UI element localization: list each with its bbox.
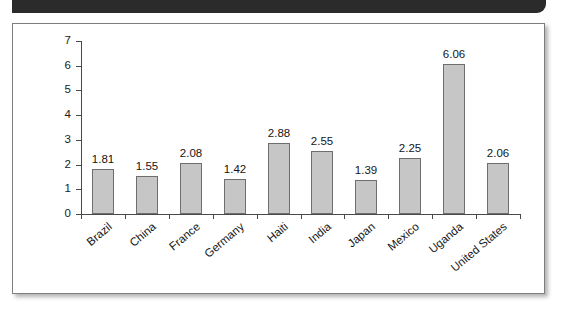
bar-value-label-china: 1.55 xyxy=(123,161,171,173)
x-axis-label-china: China xyxy=(128,221,158,249)
x-axis-tick-mark xyxy=(432,214,433,219)
x-axis-tick-mark xyxy=(257,214,258,219)
y-axis-tick-mark xyxy=(76,66,81,67)
x-axis-label-india: India xyxy=(307,221,333,246)
bar-chart-plot-area: 76543210 1.811.552.081.422.882.551.392.2… xyxy=(13,24,546,295)
bar-value-label-japan: 1.39 xyxy=(342,165,390,177)
y-axis-tick-mark xyxy=(76,189,81,190)
x-axis-tick-mark xyxy=(213,214,214,219)
x-axis-tick-mark xyxy=(520,214,521,219)
bar-united-states[interactable] xyxy=(487,163,509,214)
x-axis-tick-mark xyxy=(388,214,389,219)
y-axis-tick-mark xyxy=(76,140,81,141)
y-axis-tick-mark xyxy=(76,115,81,116)
x-axis-tick-mark xyxy=(81,214,82,219)
y-axis-tick-mark xyxy=(76,41,81,42)
bar-value-label-brazil: 1.81 xyxy=(79,154,127,166)
bar-india[interactable] xyxy=(311,151,333,214)
x-axis-tick-mark xyxy=(169,214,170,219)
y-axis-tick-label-text: 5 xyxy=(65,84,71,96)
bar-value-label-mexico: 2.25 xyxy=(386,143,434,155)
bar-china[interactable] xyxy=(136,176,158,214)
bar-value-label-india: 2.55 xyxy=(298,136,346,148)
chart-figure-frame: 76543210 1.811.552.081.422.882.551.392.2… xyxy=(12,23,545,294)
x-axis-label-france: France xyxy=(168,221,203,253)
x-axis-label-mexico: Mexico xyxy=(386,221,421,253)
x-axis-tick-mark xyxy=(301,214,302,219)
y-axis-tick-label-text: 1 xyxy=(65,183,71,195)
bar-haiti[interactable] xyxy=(268,143,290,214)
bar-france[interactable] xyxy=(180,163,202,214)
bar-value-label-germany: 1.42 xyxy=(211,164,259,176)
bar-uganda[interactable] xyxy=(443,64,465,214)
y-axis-tick-label-text: 3 xyxy=(65,134,71,146)
x-axis-label-uganda: Uganda xyxy=(427,221,465,256)
x-axis-tick-mark xyxy=(125,214,126,219)
bar-brazil[interactable] xyxy=(92,169,114,214)
y-axis-tick-label-text: 6 xyxy=(65,60,71,72)
bar-value-label-france: 2.08 xyxy=(167,148,215,160)
y-axis-tick-label-text: 4 xyxy=(65,109,71,121)
y-axis-tick-label-text: 7 xyxy=(65,35,71,47)
x-axis-label-japan: Japan xyxy=(346,221,377,250)
bar-germany[interactable] xyxy=(224,179,246,214)
y-axis-tick-mark xyxy=(76,90,81,91)
y-axis-tick-label-text: 2 xyxy=(65,159,71,171)
bar-value-label-haiti: 2.88 xyxy=(255,128,303,140)
y-axis-tick-label-text: 0 xyxy=(65,208,71,220)
bar-japan[interactable] xyxy=(355,180,377,214)
x-axis-label-brazil: Brazil xyxy=(85,221,114,248)
header-band xyxy=(12,0,546,13)
x-axis-tick-mark xyxy=(344,214,345,219)
y-axis-line xyxy=(81,41,82,215)
x-axis-label-germany: Germany xyxy=(203,221,247,260)
bar-mexico[interactable] xyxy=(399,158,421,214)
bar-value-label-united-states: 2.06 xyxy=(474,148,522,160)
x-axis-tick-mark xyxy=(476,214,477,219)
bar-value-label-uganda: 6.06 xyxy=(430,49,478,61)
x-axis-label-haiti: Haiti xyxy=(265,221,290,245)
